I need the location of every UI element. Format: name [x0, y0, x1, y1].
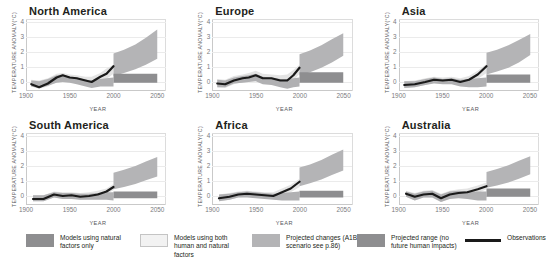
legend-item-projected-range: Projected range (no future human impacts… [357, 234, 465, 251]
x-tick-label: 1900 [19, 93, 33, 99]
y-tick-label: 2 [207, 163, 211, 169]
y-tick-label: 0 [20, 79, 24, 85]
x-tick-label: 2000 [479, 207, 493, 213]
x-tick-label: 2050 [523, 93, 537, 99]
panel-title: South America [29, 119, 109, 131]
x-axis-label: YEAR [401, 220, 541, 226]
x-axis-label: YEAR [401, 106, 541, 112]
y-axis-label: TEMPERATURE ANOMALY(°C) [197, 13, 203, 93]
x-tick-label: 1950 [435, 207, 449, 213]
x-tick-label: 2000 [106, 93, 120, 99]
y-tick-label: 1 [207, 64, 211, 70]
legend-swatch-natural-only [26, 234, 54, 247]
x-tick-label: 1900 [392, 93, 406, 99]
y-tick-label: 1 [393, 178, 397, 184]
x-tick-label: 1950 [63, 207, 77, 213]
climate-anomaly-figure: North America TEMPERATURE ANOMALY(°C) YE… [0, 0, 559, 265]
y-tick-label: 0 [393, 193, 397, 199]
legend-swatch-observations-line [465, 234, 501, 247]
legend-swatch-projected-range [357, 234, 385, 247]
panel-australia: Australia TEMPERATURE ANOMALY(°C) YEAR 0… [373, 114, 559, 228]
panel-africa: Africa TEMPERATURE ANOMALY(°C) YEAR 0123… [186, 114, 372, 228]
band-projected-changes [300, 33, 344, 75]
plot-area: 012341900195020002050 [212, 19, 352, 91]
y-tick-label: 3 [393, 148, 397, 154]
band-projected-no-human-impacts [300, 72, 344, 83]
legend-label: Models using natural factors only [60, 234, 134, 251]
panel-title: Africa [215, 119, 247, 131]
legend-swatch-human-and-natural [140, 234, 168, 247]
x-tick-label: 1950 [249, 207, 263, 213]
plot-area: 012341900195020002050 [26, 19, 166, 91]
y-tick-label: 3 [20, 34, 24, 40]
panel-grid: North America TEMPERATURE ANOMALY(°C) YE… [0, 0, 559, 228]
y-tick-label: 2 [207, 49, 211, 55]
legend-label: Observations [507, 234, 546, 242]
x-axis-label: YEAR [28, 106, 168, 112]
plot-data-layer [26, 19, 166, 91]
x-tick-label: 2000 [293, 93, 307, 99]
panel-title: Asia [402, 5, 426, 17]
x-tick-label: 2000 [293, 207, 307, 213]
y-tick-label: 1 [207, 178, 211, 184]
band-projected-changes [486, 34, 530, 75]
x-tick-label: 2050 [523, 207, 537, 213]
x-tick-label: 1900 [205, 207, 219, 213]
y-axis-label: TEMPERATURE ANOMALY(°C) [11, 13, 17, 93]
y-tick-label: 0 [20, 193, 24, 199]
legend-label: Projected changes (A1B scenario see p.86… [286, 234, 360, 251]
y-tick-label: 4 [393, 19, 397, 25]
x-axis-label: YEAR [214, 106, 354, 112]
band-projected-no-human-impacts [486, 75, 530, 83]
panel-title: Australia [402, 119, 451, 131]
chart-legend: Models using natural factors only Models… [0, 228, 559, 265]
y-tick-label: 1 [20, 64, 24, 70]
plot-area: 012341900195020002050 [26, 133, 166, 205]
y-tick-label: 1 [393, 64, 397, 70]
legend-swatch-projected-changes [252, 234, 280, 247]
y-tick-label: 0 [393, 79, 397, 85]
y-tick-label: 3 [393, 34, 397, 40]
y-axis-label: TEMPERATURE ANOMALY(°C) [197, 127, 203, 207]
panel-europe: Europe TEMPERATURE ANOMALY(°C) YEAR 0123… [186, 0, 372, 114]
y-axis-label: TEMPERATURE ANOMALY(°C) [384, 13, 390, 93]
legend-label: Models using both human and natural fact… [174, 234, 248, 259]
y-tick-label: 0 [207, 193, 211, 199]
y-tick-label: 4 [20, 19, 24, 25]
band-projected-no-human-impacts [114, 74, 158, 83]
panel-asia: Asia TEMPERATURE ANOMALY(°C) YEAR 012341… [373, 0, 559, 114]
plot-area: 012341900195020002050 [399, 133, 539, 205]
band-projected-changes [486, 156, 530, 188]
y-tick-label: 4 [207, 19, 211, 25]
plot-data-layer [212, 19, 352, 91]
y-tick-label: 4 [20, 133, 24, 139]
x-tick-label: 2050 [336, 207, 350, 213]
y-tick-label: 4 [207, 133, 211, 139]
x-axis-label: YEAR [214, 220, 354, 226]
panel-north-america: North America TEMPERATURE ANOMALY(°C) YE… [0, 0, 186, 114]
y-tick-label: 2 [20, 163, 24, 169]
band-projected-changes [114, 30, 158, 77]
y-tick-label: 0 [207, 79, 211, 85]
plot-data-layer [212, 133, 352, 205]
plot-data-layer [399, 19, 539, 91]
y-axis-label: TEMPERATURE ANOMALY(°C) [11, 127, 17, 207]
x-tick-label: 2000 [106, 207, 120, 213]
y-tick-label: 3 [207, 34, 211, 40]
x-axis-label: YEAR [28, 220, 168, 226]
band-projected-changes [300, 150, 344, 187]
x-tick-label: 2050 [150, 207, 164, 213]
x-tick-label: 1950 [435, 93, 449, 99]
band-projected-no-human-impacts [114, 192, 158, 199]
y-tick-label: 3 [207, 148, 211, 154]
plot-data-layer [26, 133, 166, 205]
band-projected-no-human-impacts [486, 189, 530, 197]
x-tick-label: 1900 [19, 207, 33, 213]
x-tick-label: 1950 [249, 93, 263, 99]
y-tick-label: 2 [393, 163, 397, 169]
band-projected-changes [114, 157, 158, 189]
legend-item-natural-only: Models using natural factors only [26, 234, 134, 251]
legend-item-observations: Observations [465, 234, 546, 247]
legend-item-human-and-natural: Models using both human and natural fact… [140, 234, 248, 259]
plot-area: 012341900195020002050 [399, 19, 539, 91]
